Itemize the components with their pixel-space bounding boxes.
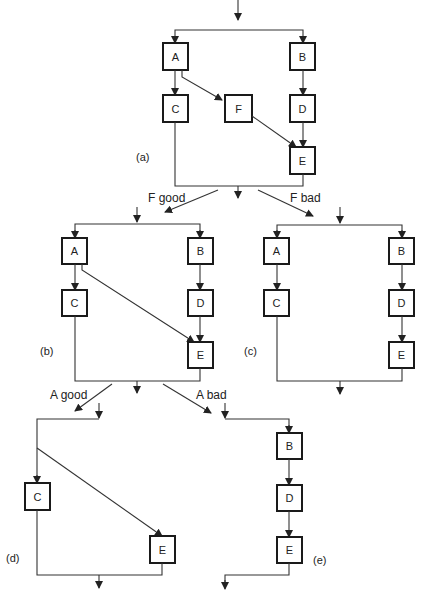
edge-to-e [37, 448, 162, 536]
branch-label-a-good: A good [50, 388, 87, 402]
caption-e: (e) [313, 554, 326, 566]
node-f-label: F [235, 103, 242, 115]
branch-label-f-good: F good [148, 191, 185, 205]
node-a-label: A [273, 245, 281, 257]
join-line [37, 510, 162, 575]
diagram-b: A B C D E (b) [40, 207, 213, 393]
join-line [277, 316, 402, 381]
task-graph-diagram: A B C F D E (a) F good F bad A B [0, 0, 433, 604]
node-b-label: B [197, 245, 204, 257]
node-e-label: E [286, 544, 293, 556]
node-a-label: A [71, 245, 79, 257]
fork-line [37, 419, 99, 482]
caption-c: (c) [244, 345, 257, 357]
diagram-e: B D E (e) [225, 403, 326, 589]
node-b-label: B [398, 245, 405, 257]
fork-line [277, 225, 402, 237]
node-c-label: C [172, 103, 180, 115]
node-d-label: D [398, 297, 406, 309]
node-d-label: D [286, 492, 294, 504]
fork-line [225, 419, 289, 432]
join-line [75, 316, 200, 381]
node-b-label: B [299, 51, 306, 63]
branch-label-f-bad: F bad [290, 191, 321, 205]
node-c-label: C [34, 491, 42, 503]
node-d-label: D [299, 103, 307, 115]
node-a-label: A [172, 51, 180, 63]
join-line [225, 563, 289, 586]
node-b-label: B [286, 440, 293, 452]
node-e-label: E [398, 349, 405, 361]
caption-b: (b) [40, 345, 53, 357]
edge-a-e [82, 264, 194, 342]
fork-line [75, 224, 200, 237]
fork-line [175, 30, 303, 42]
node-c-label: C [273, 297, 281, 309]
node-e-label: E [197, 349, 204, 361]
node-e-label: E [299, 155, 306, 167]
node-d-label: D [197, 297, 205, 309]
node-c-label: C [71, 297, 79, 309]
branch-label-a-bad: A bad [196, 388, 227, 402]
join-line [175, 122, 303, 186]
node-e-label: E [159, 544, 166, 556]
diagram-c: A B C D E (c) [244, 207, 414, 394]
caption-d: (d) [6, 552, 19, 564]
caption-a: (a) [136, 151, 149, 163]
diagram-d: C E (d) [6, 403, 175, 588]
diagram-a: A B C F D E (a) [136, 0, 315, 198]
